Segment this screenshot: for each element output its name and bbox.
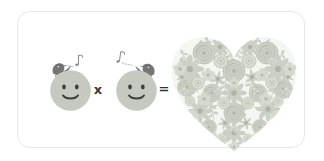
card-frame: x — [17, 11, 305, 148]
smiley-face-right — [110, 45, 166, 115]
chirp-line — [122, 63, 133, 66]
multiply-operator: x — [89, 83, 107, 96]
face-circle — [116, 70, 157, 111]
eye-left — [62, 85, 66, 90]
equation-row: x — [18, 12, 304, 147]
floral-heart — [168, 31, 300, 155]
eye-right — [141, 85, 145, 90]
music-note-icon — [75, 55, 83, 67]
face-circle — [50, 70, 91, 111]
eye-left — [128, 85, 132, 90]
smiley-face-left — [44, 45, 100, 115]
heart-flower-cluster — [171, 33, 296, 155]
eye-right — [75, 85, 79, 90]
illustration-canvas: x — [0, 0, 324, 161]
music-note-icon — [116, 52, 125, 63]
